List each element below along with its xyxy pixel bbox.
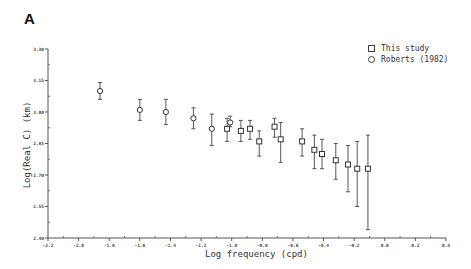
legend-label: This study <box>381 43 429 54</box>
x-tick-label: -0.8 <box>257 243 268 248</box>
data-point-square <box>272 124 277 129</box>
legend: This study Roberts (1982) <box>368 43 448 65</box>
data-point-square <box>248 126 253 131</box>
legend-item-roberts: Roberts (1982) <box>368 54 448 65</box>
y-tick-label: 2.40 <box>33 236 44 241</box>
data-point-square <box>278 137 283 142</box>
data-point-square <box>238 128 243 133</box>
data-point-circle <box>228 120 233 125</box>
x-tick-label: -1.4 <box>165 243 176 248</box>
y-tick-label: 2.85 <box>33 141 44 146</box>
x-tick-label: -2.0 <box>73 243 84 248</box>
data-point-square <box>300 139 305 144</box>
data-point-square <box>312 147 317 152</box>
y-tick-label: 3.00 <box>33 110 44 115</box>
legend-item-this-study: This study <box>368 43 448 54</box>
x-tick-label: -1.8 <box>104 243 115 248</box>
y-tick-label: 2.70 <box>33 173 44 178</box>
data-point-circle <box>209 126 214 131</box>
square-marker-icon <box>368 45 375 52</box>
x-tick-label: 0.4 <box>442 243 450 248</box>
data-point-circle <box>137 107 142 112</box>
data-point-circle <box>191 116 196 121</box>
x-tick-label: -1.0 <box>226 243 237 248</box>
x-tick-label: -1.6 <box>134 243 145 248</box>
x-tick-label: -0.4 <box>318 243 329 248</box>
x-tick-label: -2.2 <box>43 243 54 248</box>
legend-label: Roberts (1982) <box>381 54 448 65</box>
y-tick-label: 3.15 <box>33 78 44 83</box>
data-point-square <box>320 152 325 157</box>
x-tick-label: -0.6 <box>288 243 299 248</box>
x-tick-label: 0.0 <box>381 243 389 248</box>
x-tick-label: -1.2 <box>196 243 207 248</box>
x-tick-label: 0.2 <box>411 243 419 248</box>
data-point-square <box>355 166 360 171</box>
data-point-circle <box>163 109 168 114</box>
y-axis-label: Log(Real C) (km) <box>22 90 32 200</box>
data-point-square <box>257 139 262 144</box>
scatter-plot: -2.2-2.0-1.8-1.6-1.4-1.2-1.0-0.8-0.6-0.4… <box>0 0 471 269</box>
data-point-square <box>365 166 370 171</box>
data-point-square <box>333 158 338 163</box>
data-point-square <box>346 162 351 167</box>
x-axis-label: Log frequency (cpd) <box>205 249 308 259</box>
circle-marker-icon <box>368 56 375 63</box>
y-tick-label: 2.55 <box>33 204 44 209</box>
x-tick-label: -0.2 <box>349 243 360 248</box>
y-tick-label: 3.30 <box>33 47 44 52</box>
data-point-circle <box>97 88 102 93</box>
